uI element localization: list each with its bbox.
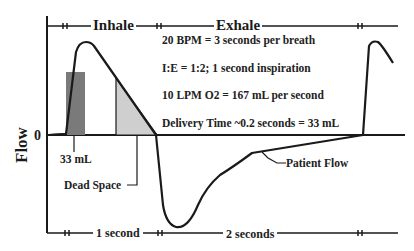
exhale-label: Exhale bbox=[214, 18, 262, 33]
info-line-ie-ratio: I:E = 1:2; 1 second inspiration bbox=[162, 63, 311, 75]
info-line-o2-rate: 10 LPM O2 = 167 mL per second bbox=[162, 90, 324, 102]
expiration-time-label: 2 seconds bbox=[223, 228, 277, 240]
dead-space-leader bbox=[127, 135, 137, 185]
y-axis-label: Flow bbox=[13, 127, 30, 163]
pre-breath-baseline bbox=[49, 134, 66, 135]
info-line-bpm: 20 BPM = 3 seconds per breath bbox=[162, 35, 315, 47]
info-line-delivery: Delivery Time ~0.2 seconds = 33 mL bbox=[162, 118, 339, 130]
zero-label: 0 bbox=[34, 129, 41, 143]
bolus-volume-label: 33 mL bbox=[60, 154, 92, 166]
inhale-label: Inhale bbox=[91, 18, 136, 33]
flow-waveform-diagram: Flow 0 Inhale Exhale 20 BPM = 3 seconds … bbox=[0, 0, 414, 251]
dead-space-label: Dead Space bbox=[64, 180, 121, 192]
patient-flow-label: Patient Flow bbox=[286, 158, 348, 170]
patient-flow-leader bbox=[262, 152, 286, 163]
inspiration-time-label: 1 second bbox=[93, 227, 143, 239]
